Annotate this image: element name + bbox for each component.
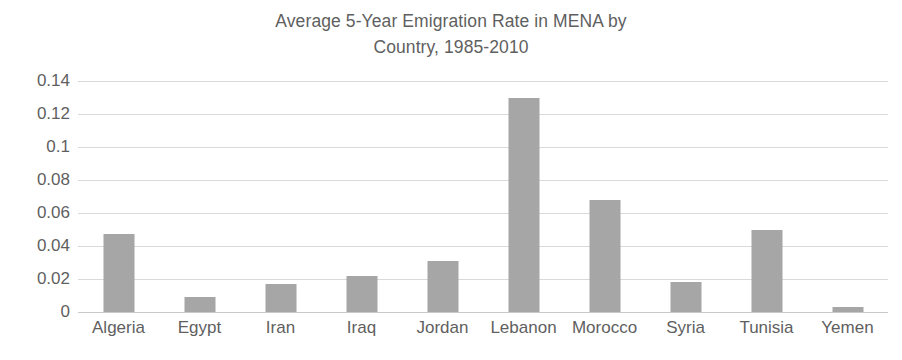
bar-slot xyxy=(564,81,645,312)
y-tick-label: 0.12 xyxy=(0,105,70,122)
x-tick-label-tunisia: Tunisia xyxy=(726,316,807,340)
bar-chart: Average 5-Year Emigration Rate in MENA b… xyxy=(0,0,902,360)
x-tick-label-iran: Iran xyxy=(240,316,321,340)
y-tick-label: 0.02 xyxy=(0,270,70,287)
bars-layer xyxy=(78,81,888,312)
y-tick-label: 0.14 xyxy=(0,72,70,89)
bar-slot xyxy=(807,81,888,312)
bar-slot xyxy=(78,81,159,312)
bar-egypt[interactable] xyxy=(184,297,215,312)
y-tick-label: 0.08 xyxy=(0,171,70,188)
y-tick-label: 0 xyxy=(0,303,70,320)
bar-slot xyxy=(321,81,402,312)
y-tick-label: 0.04 xyxy=(0,237,70,254)
y-axis: 00.020.040.060.080.10.120.14 xyxy=(0,81,70,312)
chart-title: Average 5-Year Emigration Rate in MENA b… xyxy=(0,8,902,60)
x-tick-label-syria: Syria xyxy=(645,316,726,340)
x-tick-label-egypt: Egypt xyxy=(159,316,240,340)
x-tick-label-algeria: Algeria xyxy=(78,316,159,340)
bar-algeria[interactable] xyxy=(103,234,134,312)
x-axis: AlgeriaEgyptIranIraqJordanLebanonMorocco… xyxy=(78,316,888,350)
x-tick-label-lebanon: Lebanon xyxy=(483,316,564,340)
y-tick-label: 0.1 xyxy=(0,138,70,155)
bar-slot xyxy=(159,81,240,312)
bar-slot xyxy=(240,81,321,312)
bar-slot xyxy=(402,81,483,312)
bar-slot xyxy=(483,81,564,312)
bar-morocco[interactable] xyxy=(589,200,620,312)
bar-tunisia[interactable] xyxy=(751,230,782,313)
bar-lebanon[interactable] xyxy=(508,98,539,313)
bar-slot xyxy=(726,81,807,312)
x-tick-label-yemen: Yemen xyxy=(807,316,888,340)
bar-jordan[interactable] xyxy=(427,261,458,312)
y-tick-label: 0.06 xyxy=(0,204,70,221)
bar-slot xyxy=(645,81,726,312)
bar-yemen[interactable] xyxy=(832,307,863,312)
bar-iraq[interactable] xyxy=(346,276,377,312)
bar-iran[interactable] xyxy=(265,284,296,312)
x-tick-label-jordan: Jordan xyxy=(402,316,483,340)
gridline xyxy=(78,312,888,313)
x-tick-label-morocco: Morocco xyxy=(564,316,645,340)
x-tick-label-iraq: Iraq xyxy=(321,316,402,340)
bar-syria[interactable] xyxy=(670,282,701,312)
